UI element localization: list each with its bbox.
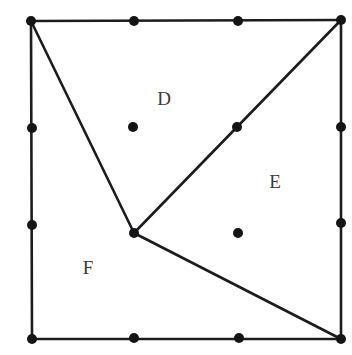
edge-dot-top-right-mid <box>233 16 243 26</box>
top-edge <box>31 20 341 21</box>
edge-dot-bottom-right-mid <box>234 333 244 343</box>
cut-topleft-to-junction <box>31 21 134 233</box>
region-label-d: D <box>157 88 171 109</box>
junction-dot-center <box>129 228 139 238</box>
region-label-f: F <box>83 257 94 278</box>
vertex-dot-bottom-left <box>27 334 37 344</box>
cut-junction-to-bottomright <box>134 233 341 339</box>
diagonal-dot-upper <box>232 122 242 132</box>
edge-dot-right-lower <box>336 218 346 228</box>
edge-dot-bottom-left-mid <box>129 333 139 343</box>
vertex-dot-top-right <box>336 15 346 25</box>
left-edge <box>31 21 32 339</box>
region-label-e: E <box>269 171 281 192</box>
diagram-canvas: DEF <box>0 0 352 355</box>
vertex-dot-top-left <box>26 16 36 26</box>
interior-dot-region-e <box>233 228 243 238</box>
edge-dot-left-lower <box>27 220 37 230</box>
edge-dot-top-left-mid <box>129 16 139 26</box>
geometry-diagram: DEF <box>0 0 352 355</box>
edges-group <box>31 20 341 339</box>
edge-dot-right-upper <box>336 122 346 132</box>
interior-dot-region-d <box>128 122 138 132</box>
vertex-dot-bottom-right <box>336 334 346 344</box>
edge-dot-left-upper <box>27 123 37 133</box>
